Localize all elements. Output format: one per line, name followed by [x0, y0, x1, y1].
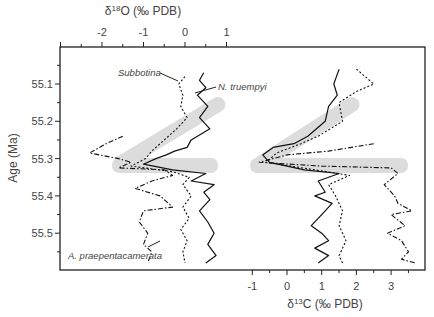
bottom-tick-label: 1 — [319, 280, 325, 292]
y-tick-label: 55.1 — [32, 78, 53, 90]
bottom-tick-label: 2 — [353, 280, 359, 292]
top-axis: -2-101 — [61, 26, 230, 47]
bottom-axis: -10123 — [247, 270, 408, 292]
top-tick-label: 0 — [182, 26, 188, 38]
annotation-subbotina: Subbotina — [118, 67, 161, 78]
top-tick-label: -1 — [139, 26, 149, 38]
bottom-tick-label: -1 — [247, 280, 257, 292]
isotope-chart: -2-101 -10123 55.155.255.355.455.5 δ18O … — [0, 0, 434, 317]
left-axis: 55.155.255.355.455.5 — [32, 65, 60, 252]
y-tick-label: 55.5 — [32, 227, 53, 239]
annotation-truempyi: N. truempyi — [218, 81, 267, 92]
y-tick-label: 55.2 — [32, 115, 53, 127]
top-tick-label: -2 — [97, 26, 107, 38]
top-tick-label: 1 — [223, 26, 229, 38]
annotation-arrow-praepentacamerata — [148, 241, 160, 247]
annotation-praepentacamerata: A. praepentacamerata — [67, 250, 162, 261]
y-axis-title: Age (Ma) — [6, 133, 20, 182]
bottom-tick-label: 0 — [284, 280, 290, 292]
bottom-axis-title: δ13C (‰ PDB) — [287, 297, 363, 311]
top-axis-title: δ18O (‰ PDB) — [105, 4, 181, 18]
y-tick-label: 55.4 — [32, 190, 53, 202]
annotation-arrow-subbotina — [160, 73, 178, 81]
y-tick-label: 55.3 — [32, 153, 53, 165]
bottom-tick-label: 3 — [388, 280, 394, 292]
